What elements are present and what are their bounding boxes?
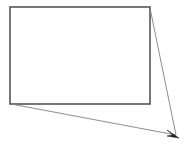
diagram-canvas — [0, 0, 187, 149]
background-rect — [0, 0, 187, 149]
diagram-svg — [0, 0, 187, 149]
